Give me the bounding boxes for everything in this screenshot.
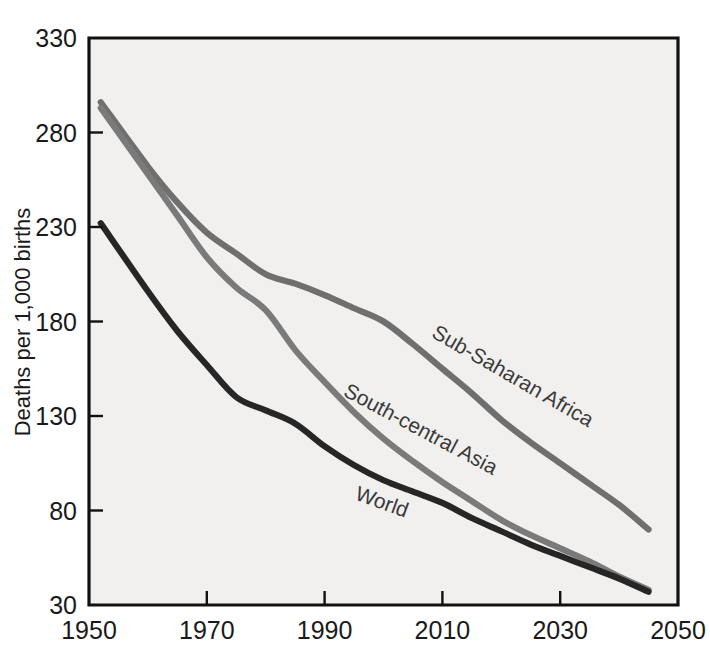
y-tick-label: 130 [35, 402, 77, 430]
line-chart: Sub-Saharan AfricaSouth-central AsiaWorl… [0, 0, 710, 656]
y-axis-title: Deaths per 1,000 births [10, 208, 35, 437]
x-tick-label: 2030 [532, 616, 588, 644]
y-tick-label: 330 [35, 24, 77, 52]
y-tick-label: 80 [49, 497, 77, 525]
x-tick-label: 1970 [179, 616, 235, 644]
chart-figure: Sub-Saharan AfricaSouth-central AsiaWorl… [0, 0, 710, 656]
x-tick-label: 2050 [650, 616, 706, 644]
y-tick-label: 230 [35, 213, 77, 241]
y-tick-label: 180 [35, 308, 77, 336]
y-tick-label: 30 [49, 591, 77, 619]
x-tick-label: 1990 [297, 616, 353, 644]
y-tick-label: 280 [35, 119, 77, 147]
x-tick-label: 1950 [61, 616, 117, 644]
x-tick-label: 2010 [415, 616, 471, 644]
